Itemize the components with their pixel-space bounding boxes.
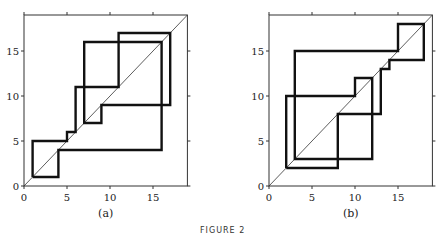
y-tick-label: 0 bbox=[13, 181, 19, 192]
panel-b: 051015051015(b) bbox=[251, 12, 435, 220]
x-tick-label: 0 bbox=[266, 192, 272, 203]
figure: 051015051015(a) 051015051015(b) FIGURE 2 bbox=[0, 0, 444, 234]
y-tick-label: 10 bbox=[251, 91, 264, 102]
y-tick-label: 5 bbox=[13, 136, 19, 147]
diagonal-line bbox=[269, 15, 432, 186]
y-tick-label: 10 bbox=[6, 91, 19, 102]
y-tick-label: 15 bbox=[251, 46, 264, 57]
x-tick-label: 15 bbox=[392, 192, 405, 203]
panel-label: (b) bbox=[343, 207, 359, 220]
x-tick-label: 15 bbox=[147, 192, 160, 203]
y-tick-label: 15 bbox=[6, 46, 19, 57]
y-tick-label: 5 bbox=[258, 136, 264, 147]
x-tick-label: 10 bbox=[349, 192, 362, 203]
x-tick-label: 5 bbox=[64, 192, 70, 203]
diagonal-line bbox=[24, 15, 187, 186]
y-tick-label: 0 bbox=[258, 181, 264, 192]
panel-label: (a) bbox=[98, 207, 113, 220]
panel-a: 051015051015(a) bbox=[6, 12, 190, 220]
x-tick-label: 0 bbox=[21, 192, 27, 203]
x-tick-label: 10 bbox=[104, 192, 117, 203]
figure-caption: FIGURE 2 bbox=[200, 226, 245, 234]
x-tick-label: 5 bbox=[309, 192, 315, 203]
